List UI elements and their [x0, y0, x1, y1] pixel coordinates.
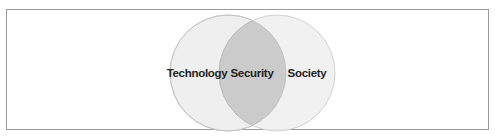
security-label: Security [231, 67, 275, 79]
society-label: Society [288, 67, 328, 79]
technology-label: Technology [167, 67, 229, 79]
venn-diagram: Technology Security Society [0, 0, 495, 136]
